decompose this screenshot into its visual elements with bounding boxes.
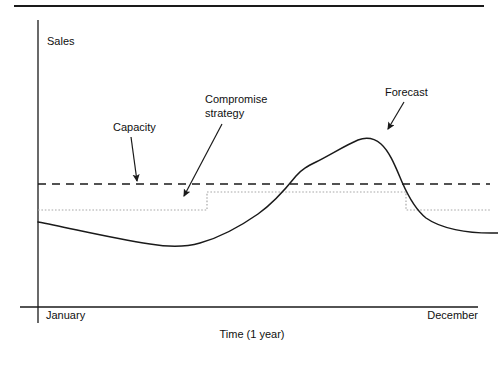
x-axis-tick-end: December: [427, 309, 478, 321]
x-axis-label: Time (1 year): [220, 328, 285, 340]
compromise-strategy-line: [38, 192, 490, 210]
annotation-capacity-arrow: [131, 137, 137, 181]
annotation-capacity-label: Capacity: [113, 121, 156, 133]
annotation-forecast-arrow: [388, 102, 404, 129]
annotation-forecast-label: Forecast: [385, 86, 428, 98]
figure-canvas: Capacity Compromise strategy Forecast Sa…: [0, 0, 498, 366]
x-axis-tick-start: January: [46, 309, 86, 321]
forecast-curve: [38, 138, 498, 246]
annotation-compromise-label-line1: Compromise: [205, 93, 267, 105]
annotation-compromise-arrow: [184, 124, 222, 196]
sales-capacity-chart: Capacity Compromise strategy Forecast Sa…: [0, 0, 498, 366]
annotation-compromise-label-line2: strategy: [205, 107, 245, 119]
y-axis-label: Sales: [47, 35, 75, 47]
